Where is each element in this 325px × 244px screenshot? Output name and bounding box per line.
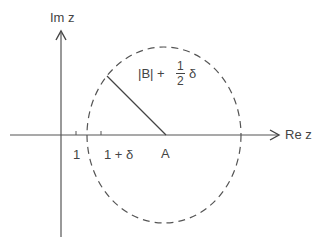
fraction-numerator: 1 <box>176 60 185 74</box>
radius-label-fraction: 1 2 <box>176 60 185 87</box>
imaginary-axis-label: Im z <box>50 11 75 24</box>
center-label-a: A <box>161 147 170 160</box>
radius-label-delta: δ <box>189 67 196 80</box>
radius-label-prefix: |B| + <box>138 67 165 80</box>
radius-line <box>107 76 166 135</box>
tick-label-1-plus-delta: 1 + δ <box>104 148 133 161</box>
fraction-denominator: 2 <box>176 74 185 87</box>
complex-plane-diagram <box>0 0 325 244</box>
real-axis-label: Re z <box>285 128 312 141</box>
tick-label-1: 1 <box>73 148 80 161</box>
